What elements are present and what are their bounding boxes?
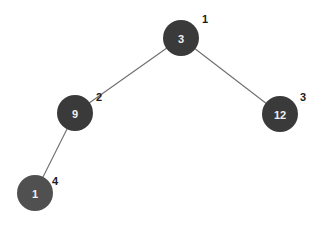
tree-node: 92 xyxy=(57,91,102,131)
tree-node: 123 xyxy=(262,91,306,132)
node-value: 1 xyxy=(32,188,38,200)
node-value: 3 xyxy=(178,33,184,45)
node-value: 12 xyxy=(274,109,286,121)
tree-edge xyxy=(75,38,181,113)
tree-edge xyxy=(181,38,280,114)
node-value: 9 xyxy=(72,108,78,120)
node-index-label: 4 xyxy=(52,175,59,187)
tree-nodes: 319212314 xyxy=(17,13,306,211)
tree-diagram: 319212314 xyxy=(0,0,322,228)
tree-node: 14 xyxy=(17,175,59,211)
node-index-label: 1 xyxy=(202,13,208,25)
tree-node: 31 xyxy=(163,13,208,56)
node-index-label: 3 xyxy=(300,91,306,103)
node-index-label: 2 xyxy=(96,91,102,103)
